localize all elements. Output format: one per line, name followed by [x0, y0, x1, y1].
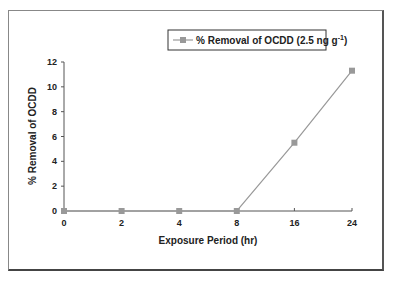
y-tick-label: 10 — [47, 82, 57, 92]
x-axis-title: Exposure Period (hr) — [159, 235, 258, 246]
y-tick-label: 12 — [47, 57, 57, 67]
x-tick-label: 8 — [234, 218, 239, 228]
data-point-square-marker-icon — [291, 140, 297, 146]
data-point-square-marker-icon — [176, 208, 182, 214]
data-point-square-marker-icon — [234, 208, 240, 214]
series-line — [64, 71, 352, 211]
x-tick-label: 24 — [347, 218, 357, 228]
y-tick-label: 0 — [52, 206, 57, 216]
x-tick-label: 16 — [289, 218, 299, 228]
data-point-square-marker-icon — [119, 208, 125, 214]
data-point-square-marker-icon — [349, 68, 355, 74]
x-tick-label: 0 — [61, 218, 66, 228]
legend: % Removal of OCDD (2.5 ng g-1) — [168, 30, 347, 50]
figure-caption-faint — [18, 273, 378, 282]
y-tick-label: 8 — [52, 107, 57, 117]
series-removal-ocdd — [61, 68, 355, 214]
line-chart: % Removal of OCDD (2.5 ng g-1) 024681012… — [0, 0, 393, 282]
data-point-square-marker-icon — [61, 208, 67, 214]
y-tick-label: 2 — [52, 181, 57, 191]
y-axis-title: % Removal of OCDD — [27, 87, 38, 185]
x-tick-label: 2 — [119, 218, 124, 228]
x-tick-label: 4 — [177, 218, 182, 228]
y-tick-label: 6 — [52, 132, 57, 142]
y-tick-label: 4 — [52, 156, 57, 166]
legend-square-marker-icon — [180, 37, 186, 43]
legend-label: % Removal of OCDD (2.5 ng g-1) — [196, 34, 347, 46]
y-tick-labels: 024681012 — [47, 57, 64, 216]
